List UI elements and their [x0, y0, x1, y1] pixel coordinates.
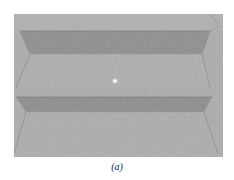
figure-caption: (a): [0, 161, 234, 172]
stairs-photo: [14, 14, 223, 157]
